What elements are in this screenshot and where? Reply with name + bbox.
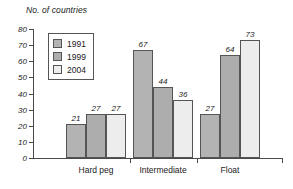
y-axis-tick: [29, 77, 33, 78]
bar: 21: [66, 124, 86, 158]
legend-item: 2004: [53, 63, 86, 76]
bar: 27: [200, 114, 220, 158]
y-axis-tick: [29, 94, 33, 95]
bar: 27: [106, 114, 126, 158]
legend-item: 1999: [53, 50, 86, 63]
y-axis-tick: [29, 142, 33, 143]
chart-legend: 199119992004: [48, 33, 94, 80]
y-axis-line: [33, 29, 34, 158]
x-axis-separator-tick: [282, 158, 283, 163]
x-axis-separator-tick: [197, 158, 198, 163]
bar-value-label: 44: [159, 77, 168, 86]
bar-value-label: 27: [206, 104, 215, 113]
y-axis-tick-label: 60: [18, 57, 27, 66]
y-axis-tick: [29, 110, 33, 111]
legend-item-label: 1991: [67, 39, 86, 49]
y-axis-tick-label: 40: [18, 89, 27, 98]
legend-swatch-icon: [53, 52, 62, 61]
legend-item: 1991: [53, 37, 86, 50]
bar: 73: [240, 40, 260, 158]
x-axis-line: [33, 158, 283, 159]
bar-value-label: 64: [226, 45, 235, 54]
bar-chart: No. of countries 01020304050607080 21272…: [0, 0, 293, 189]
bar: 64: [220, 55, 240, 158]
bar: 44: [153, 87, 173, 158]
bar-value-label: 27: [112, 104, 121, 113]
legend-item-label: 2004: [67, 65, 86, 75]
y-axis-tick-label: 30: [18, 105, 27, 114]
bar: 27: [86, 114, 106, 158]
y-axis-tick: [29, 61, 33, 62]
x-axis-category-label: Intermediate: [139, 165, 186, 175]
bar-value-label: 73: [246, 30, 255, 39]
chart-axis-title: No. of countries: [26, 5, 87, 15]
bar-value-label: 21: [72, 114, 81, 123]
x-axis-category-label: Float: [221, 165, 240, 175]
legend-swatch-icon: [53, 39, 62, 48]
y-axis-tick-label: 20: [18, 121, 27, 130]
y-axis-tick: [29, 126, 33, 127]
bar-value-label: 36: [179, 90, 188, 99]
y-axis-tick: [29, 158, 33, 159]
y-axis-tick-label: 50: [18, 73, 27, 82]
legend-swatch-icon: [53, 65, 62, 74]
bar: 67: [133, 50, 153, 158]
y-axis-tick: [29, 45, 33, 46]
y-axis-tick-label: 0: [23, 154, 27, 163]
x-axis-category-label: Hard peg: [79, 165, 114, 175]
y-axis-tick: [29, 29, 33, 30]
bar-value-label: 67: [139, 40, 148, 49]
bar: 36: [173, 100, 193, 158]
y-axis-tick-label: 70: [18, 41, 27, 50]
x-axis-separator-tick: [130, 158, 131, 163]
bar-value-label: 27: [92, 104, 101, 113]
legend-item-label: 1999: [67, 52, 86, 62]
y-axis-tick-label: 80: [18, 25, 27, 34]
y-axis-tick-label: 10: [18, 137, 27, 146]
